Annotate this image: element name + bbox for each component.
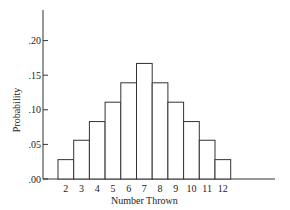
histogram-bar (184, 122, 200, 179)
x-tick-label: 4 (95, 183, 100, 194)
histogram-bar (137, 63, 153, 179)
x-tick-label: 8 (158, 183, 163, 194)
histogram-bar (89, 122, 105, 179)
y-tick-label: .20 (29, 35, 42, 46)
x-tick-label: 9 (173, 183, 178, 194)
histogram-bar (152, 83, 168, 179)
x-tick-label: 11 (202, 183, 212, 194)
y-tick-label: .10 (29, 104, 42, 115)
probability-histogram: .00.05.10.15.2023456789101112Number Thro… (0, 0, 290, 210)
x-tick-label: 5 (110, 183, 115, 194)
y-axis-label: Probability (11, 88, 22, 132)
y-tick-label: .05 (29, 139, 42, 150)
x-tick-label: 3 (79, 183, 84, 194)
x-tick-label: 10 (186, 183, 196, 194)
histogram-bar (199, 140, 215, 179)
histogram-bar (121, 83, 137, 179)
x-tick-label: 2 (63, 183, 68, 194)
y-tick-label: .15 (29, 70, 42, 81)
y-tick-label: .00 (29, 174, 42, 185)
histogram-bar (105, 102, 121, 179)
histogram-bar (58, 160, 74, 179)
histogram-bar (74, 140, 90, 179)
histogram-bar (215, 160, 231, 179)
x-axis-label: Number Thrown (111, 195, 178, 206)
histogram-bar (168, 102, 184, 179)
x-tick-label: 6 (126, 183, 131, 194)
x-tick-label: 12 (218, 183, 228, 194)
x-tick-label: 7 (142, 183, 147, 194)
